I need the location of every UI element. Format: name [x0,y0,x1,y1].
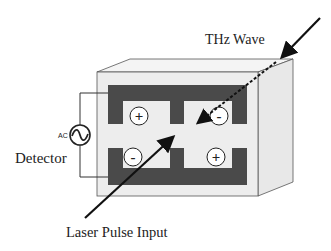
svg-text:-: - [131,149,136,165]
ac-source-icon [70,125,90,145]
ac-label: AC [58,132,68,139]
laser-pulse-input-label: Laser Pulse Input [66,224,167,240]
svg-text:+: + [212,149,221,165]
svg-text:+: + [135,108,144,124]
substrate-side-face [258,59,293,196]
charge-top-left: + [130,107,148,125]
thz-wave-label: THz Wave [205,32,265,47]
svg-text:-: - [217,108,222,124]
photoconductive-antenna-diagram: + - - + AC Detector THz Wave Laser Pulse… [0,0,331,251]
charge-bottom-left: - [124,148,142,166]
detector-label: Detector [15,150,67,166]
charge-top-right: - [210,107,228,125]
charge-bottom-right: + [207,148,225,166]
